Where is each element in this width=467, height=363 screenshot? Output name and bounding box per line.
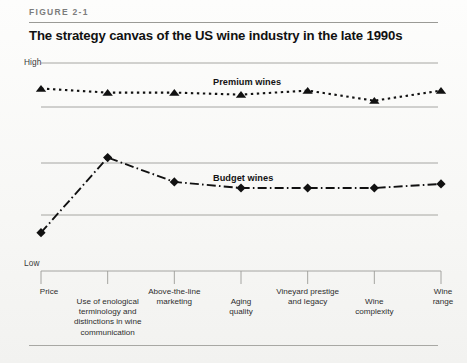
data-point-premium-2 (169, 89, 179, 96)
x-axis-group (41, 271, 441, 284)
strategy-canvas-chart: High Low Premium wines Budget wines Pric… (0, 0, 467, 363)
data-point-budget-3 (236, 183, 245, 192)
series-label-budget: Budget wines (213, 173, 273, 183)
series-label-premium: Premium wines (213, 77, 281, 87)
data-point-budget-2 (170, 177, 179, 186)
data-point-budget-4 (303, 183, 312, 192)
series-line-budget (41, 158, 441, 233)
x-axis-label-6: Wine range (401, 287, 467, 307)
figure-card: FIGURE 2-1 The strategy canvas of the US… (0, 0, 467, 363)
axis-label-low: Low (24, 258, 40, 268)
data-point-premium-3 (236, 91, 246, 98)
data-point-premium-0 (36, 85, 46, 92)
footer-divider (29, 345, 438, 346)
data-point-premium-1 (102, 89, 112, 96)
data-point-budget-6 (436, 179, 445, 188)
axis-label-high: High (24, 57, 41, 67)
data-point-budget-5 (370, 183, 379, 192)
data-point-budget-1 (103, 153, 112, 162)
series-group (36, 85, 446, 237)
x-axis-label-0: Price (7, 287, 91, 297)
